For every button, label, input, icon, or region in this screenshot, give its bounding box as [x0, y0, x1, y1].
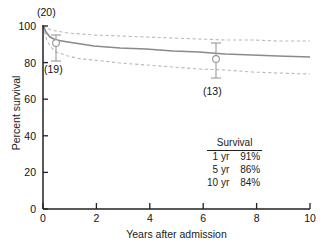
x-tick-label-6: 6: [191, 212, 215, 224]
lower-confidence-band: [43, 26, 310, 74]
count-annotation-19: (19): [44, 63, 63, 75]
error-bar-point-2: [211, 43, 221, 78]
legend-value-1yr: 91%: [240, 151, 262, 165]
survival-chart: 100 80 60 40 20 0 0 2 4 6 8 10 Percent s…: [0, 0, 324, 249]
x-axis-ticks: [43, 203, 310, 209]
legend-period-1yr: 1 yr: [207, 151, 240, 165]
x-tick-label-2: 2: [84, 212, 108, 224]
x-axis-title: Years after admission: [43, 228, 310, 240]
x-tick-label-8: 8: [245, 212, 269, 224]
legend-row-10yr: 10 yr 84%: [207, 177, 262, 190]
x-tick-label-10: 10: [298, 212, 322, 224]
legend-header-row: Survival: [207, 137, 262, 151]
legend-value-5yr: 86%: [240, 164, 262, 177]
legend-row-1yr: 1 yr 91%: [207, 151, 262, 165]
x-tick-label-4: 4: [138, 212, 162, 224]
count-annotation-13: (13): [203, 85, 222, 97]
x-tick-label-0: 0: [31, 212, 55, 224]
count-annotation-20: (20): [37, 6, 56, 18]
y-tick-label-100: 100: [8, 20, 36, 32]
legend-value-10yr: 84%: [240, 177, 262, 190]
upper-confidence-band: [43, 26, 310, 41]
legend-header: Survival: [207, 137, 262, 151]
y-tick-label-20: 20: [8, 166, 36, 178]
legend-period-5yr: 5 yr: [207, 164, 240, 177]
legend-row-5yr: 5 yr 86%: [207, 164, 262, 177]
y-axis-title: Percent survival: [10, 58, 22, 168]
legend-period-10yr: 10 yr: [207, 177, 240, 190]
survival-legend-table: Survival 1 yr 91% 5 yr 86% 10 yr 84%: [207, 137, 262, 190]
survival-curve: [43, 26, 310, 57]
